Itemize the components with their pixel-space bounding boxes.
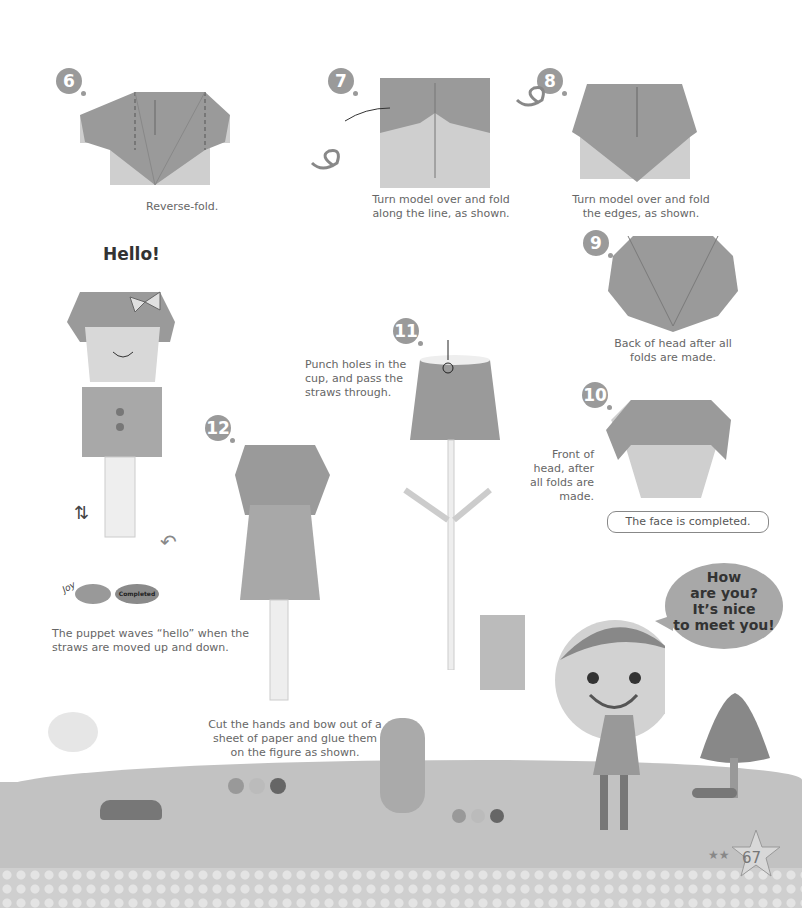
completed-badge: Completed [115, 584, 159, 604]
step-10-number: 10 [582, 382, 608, 408]
face-completed-label: The face is completed. [607, 511, 769, 533]
small-stars-icon: ★★ [708, 848, 730, 862]
step-7-caption: Turn model over and fold along the line,… [366, 193, 516, 221]
step-7-diagram [300, 78, 510, 188]
step-10-caption: Front of head, after all folds are made. [518, 448, 594, 504]
ladybug-badge [75, 584, 111, 604]
turn-over-icon [517, 88, 543, 106]
dotted-border [0, 868, 802, 908]
step-9-diagram [608, 236, 738, 332]
turn-over-icon: ↶ [160, 530, 177, 554]
speech-line: are you? [665, 585, 783, 601]
turn-over-icon [312, 151, 338, 169]
step-12-diagram [225, 435, 335, 705]
bee-icon [48, 712, 98, 752]
bush-icon [100, 800, 162, 820]
step-8-diagram [512, 82, 697, 182]
step-10-diagram [606, 400, 736, 498]
page-heading: Hello! [103, 244, 160, 264]
speech-line: to meet you! [665, 617, 783, 633]
finished-puppet-image [45, 282, 195, 542]
step-6-diagram [80, 90, 230, 190]
step-8-caption: Turn model over and fold the edges, as s… [566, 193, 716, 221]
step-9-caption: Back of head after all folds are made. [608, 337, 738, 365]
step-6-caption: Reverse-fold. [146, 200, 218, 214]
step-6-number: 6 [56, 68, 82, 94]
tree-icon [690, 688, 780, 798]
flowers-icon [228, 778, 308, 800]
worm-icon [380, 718, 425, 813]
page-number: 67 [742, 849, 761, 867]
speech-bubble: How are you? It’s nice to meet you! [665, 563, 783, 649]
boy-with-puppet-image [475, 600, 665, 835]
speech-line: How [665, 569, 783, 585]
step-9-number: 9 [583, 230, 609, 256]
up-down-arrows-icon: ⇅ [74, 502, 89, 523]
speech-line: It’s nice [665, 601, 783, 617]
step-12-caption: Cut the hands and bow out of a sheet of … [205, 718, 385, 760]
